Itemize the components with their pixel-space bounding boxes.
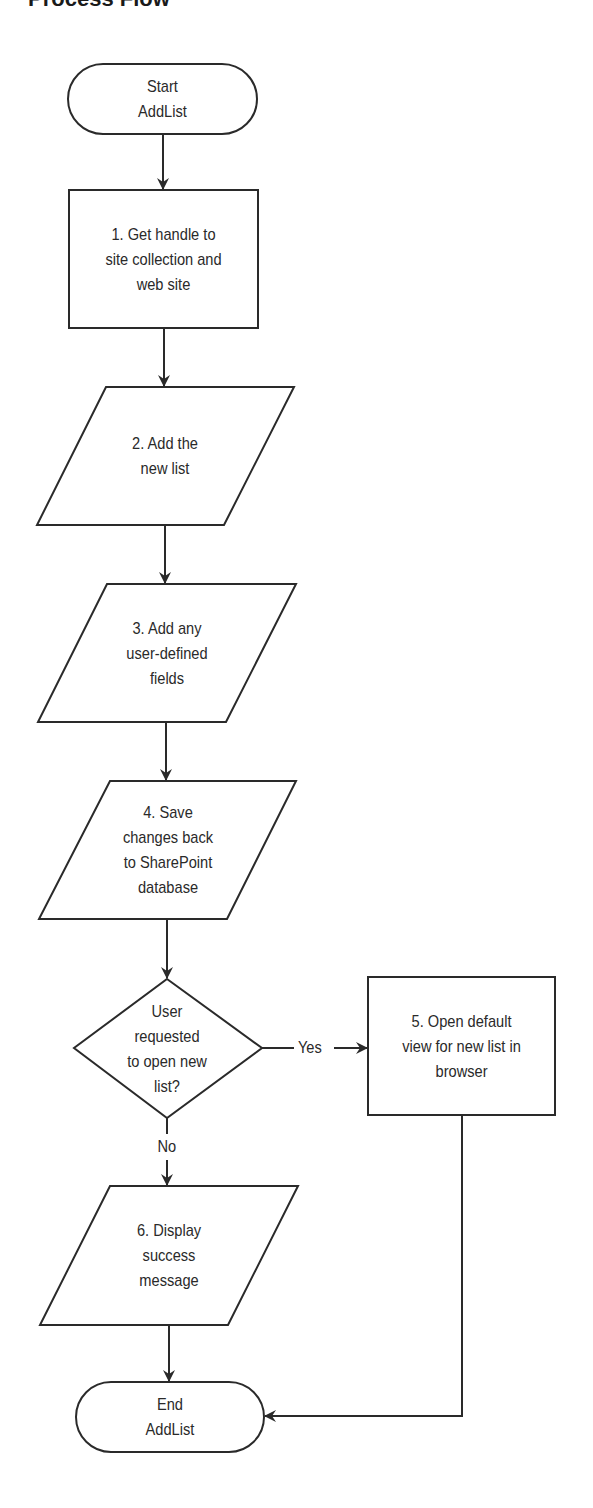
step3-line-3: fields (150, 666, 184, 691)
step1-line-1: 1. Get handle to (111, 222, 215, 247)
step3-line-1: 3. Add any (132, 616, 201, 641)
step4-line-2: changes back (123, 825, 213, 850)
step2-line-1: 2. Add the (132, 431, 198, 456)
start-line-1: Start (147, 74, 178, 99)
step4-line-4: database (138, 875, 198, 900)
step1-line-3: web site (137, 272, 191, 297)
step5-label: 5. Open default view for new list in bro… (381, 977, 542, 1115)
step3-line-2: user-defined (126, 641, 207, 666)
decision-line-2: requested (134, 1024, 199, 1049)
decision-line-4: list? (154, 1074, 180, 1099)
step6-line-2: success (143, 1243, 196, 1268)
step4-line-3: to SharePoint (124, 850, 213, 875)
step2-label: 2. Add the new list (83, 387, 246, 525)
step2-line-2: new list (141, 456, 190, 481)
step6-line-1: 6. Display (137, 1218, 201, 1243)
step6-line-3: message (139, 1268, 198, 1293)
start-line-2: AddList (138, 99, 187, 124)
step5-line-3: browser (435, 1059, 487, 1084)
end-terminal-label: End AddList (89, 1382, 251, 1452)
step5-line-1: 5. Open default (411, 1009, 511, 1034)
step6-label: 6. Display success message (87, 1186, 250, 1325)
step4-label: 4. Save changes back to SharePoint datab… (86, 781, 249, 919)
step4-line-1: 4. Save (143, 800, 193, 825)
arrow-step5-to-end (265, 1115, 462, 1416)
no-edge-label: No (156, 1137, 178, 1157)
step5-line-2: view for new list in (402, 1034, 521, 1059)
start-terminal-label: Start AddList (81, 64, 244, 134)
end-line-2: AddList (146, 1417, 195, 1442)
step3-label: 3. Add any user-defined fields (85, 584, 248, 722)
decision-line-1: User (152, 999, 183, 1024)
step1-line-2: site collection and (105, 247, 221, 272)
end-line-1: End (157, 1392, 183, 1417)
decision-label: User requested to open new list? (101, 984, 233, 1114)
decision-line-3: to open new (127, 1049, 207, 1074)
step1-label: 1. Get handle to site collection and web… (82, 190, 245, 328)
yes-edge-label: Yes (296, 1038, 323, 1058)
